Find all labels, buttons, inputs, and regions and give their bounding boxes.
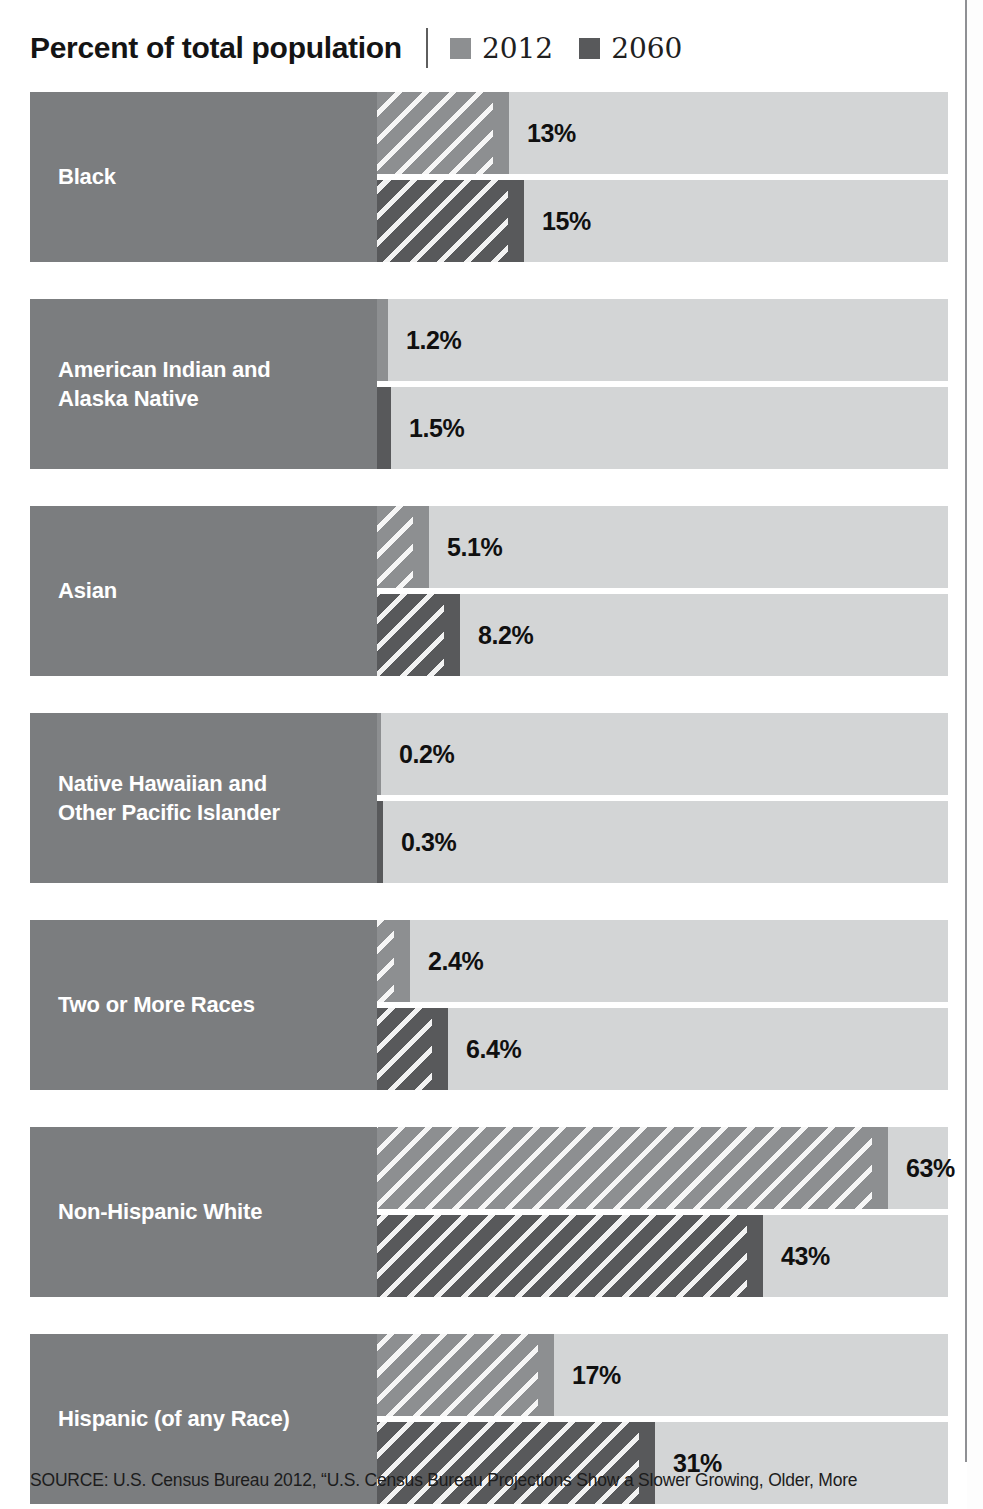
bar-value-label: 0.2%	[399, 740, 454, 769]
category-label: Hispanic (of any Race)	[58, 1404, 290, 1433]
bar-group: Black13%15%	[0, 92, 983, 262]
bar-value-label: 5.1%	[447, 533, 502, 562]
bar-group: Two or More Races2.4%6.4%	[0, 920, 983, 1090]
bar-2012	[377, 299, 388, 381]
bar-2060	[377, 1008, 448, 1090]
page-title: Percent of total population	[30, 31, 402, 65]
bar-track: 17%	[377, 1334, 948, 1416]
bar-value-label: 17%	[572, 1361, 621, 1390]
category-label-block: Asian	[30, 506, 377, 676]
bar-track: 5.1%	[377, 506, 948, 588]
chart-header: Percent of total population 2012 2060	[30, 26, 682, 70]
bar-end-cap	[413, 506, 429, 588]
bar-end-cap	[493, 92, 509, 174]
bar-track-container: 0.2%0.3%	[377, 713, 948, 883]
bar-track: 6.4%	[377, 1008, 948, 1090]
bar-track: 1.5%	[377, 387, 948, 469]
legend-label-2060: 2060	[611, 32, 682, 65]
bar-track: 0.3%	[377, 801, 948, 883]
bar-value-label: 0.3%	[401, 828, 456, 857]
bar-track: 1.2%	[377, 299, 948, 381]
category-label: Two or More Races	[58, 990, 255, 1019]
bar-track: 0.2%	[377, 713, 948, 795]
legend-label-2012: 2012	[482, 32, 553, 65]
bar-chart: Black13%15%American Indian andAlaska Nat…	[0, 92, 983, 1509]
bar-track: 31%	[377, 1422, 948, 1504]
bar-track: 13%	[377, 92, 948, 174]
bar-2012	[377, 920, 410, 1002]
bar-value-label: 2.4%	[428, 947, 483, 976]
bar-end-cap	[639, 1422, 655, 1504]
category-label-block: Native Hawaiian andOther Pacific Islande…	[30, 713, 377, 883]
bar-2060	[377, 801, 383, 883]
bar-2060	[377, 594, 460, 676]
category-label: American Indian andAlaska Native	[58, 355, 271, 414]
bar-end-cap	[747, 1215, 763, 1297]
bar-end-cap	[508, 180, 524, 262]
legend-item-2060: 2060	[579, 32, 682, 65]
bar-end-cap	[872, 1127, 888, 1209]
bar-2060	[377, 180, 524, 262]
bar-end-cap	[538, 1334, 554, 1416]
bar-value-label: 13%	[527, 119, 576, 148]
category-label: Asian	[58, 576, 117, 605]
source-note: SOURCE: U.S. Census Bureau 2012, “U.S. C…	[30, 1470, 960, 1491]
bar-2012	[377, 506, 429, 588]
bar-value-label: 63%	[906, 1154, 955, 1183]
bar-track: 63%	[377, 1127, 948, 1209]
bar-end-cap	[432, 1008, 448, 1090]
category-label-block: Black	[30, 92, 377, 262]
bar-2012	[377, 92, 509, 174]
bar-value-label: 1.5%	[409, 414, 464, 443]
bar-group: Non-Hispanic White63%43%	[0, 1127, 983, 1297]
bar-track-container: 13%15%	[377, 92, 948, 262]
bar-track: 8.2%	[377, 594, 948, 676]
legend: 2012 2060	[450, 32, 683, 65]
bar-group: Native Hawaiian andOther Pacific Islande…	[0, 713, 983, 883]
category-label: Non-Hispanic White	[58, 1197, 262, 1226]
bar-track: 2.4%	[377, 920, 948, 1002]
bar-2060	[377, 387, 391, 469]
bar-group: American Indian andAlaska Native1.2%1.5%	[0, 299, 983, 469]
legend-divider	[426, 28, 428, 68]
legend-item-2012: 2012	[450, 32, 553, 65]
bar-value-label: 43%	[781, 1242, 830, 1271]
category-label: Black	[58, 162, 116, 191]
bar-track-container: 5.1%8.2%	[377, 506, 948, 676]
category-label-block: Two or More Races	[30, 920, 377, 1090]
bar-end-cap	[394, 920, 410, 1002]
bar-2012	[377, 1127, 888, 1209]
bar-value-label: 1.2%	[406, 326, 461, 355]
bar-value-label: 15%	[542, 207, 591, 236]
category-label-block: American Indian andAlaska Native	[30, 299, 377, 469]
category-label: Native Hawaiian andOther Pacific Islande…	[58, 769, 280, 828]
bar-track-container: 1.2%1.5%	[377, 299, 948, 469]
bar-group: Asian5.1%8.2%	[0, 506, 983, 676]
bar-track: 15%	[377, 180, 948, 262]
bar-value-label: 8.2%	[478, 621, 533, 650]
bar-track-container: 2.4%6.4%	[377, 920, 948, 1090]
bar-end-cap	[444, 594, 460, 676]
bar-2012	[377, 1334, 554, 1416]
bar-2060	[377, 1422, 655, 1504]
bar-value-label: 6.4%	[466, 1035, 521, 1064]
legend-swatch-2060-icon	[579, 38, 600, 59]
legend-swatch-2012-icon	[450, 38, 471, 59]
bar-2012	[377, 713, 381, 795]
bar-track: 43%	[377, 1215, 948, 1297]
bar-2060	[377, 1215, 763, 1297]
bar-track-container: 63%43%	[377, 1127, 948, 1297]
category-label-block: Non-Hispanic White	[30, 1127, 377, 1297]
